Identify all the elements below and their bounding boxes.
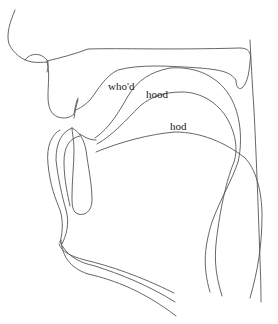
nostril-outline bbox=[25, 54, 48, 72]
tongue-hood bbox=[97, 92, 236, 296]
tongue-whod bbox=[95, 68, 240, 292]
label-whod: who'd bbox=[108, 80, 135, 92]
label-hood: hood bbox=[146, 88, 169, 100]
pharyngeal-wall bbox=[250, 40, 261, 302]
lower-teeth-outline bbox=[72, 128, 92, 214]
lower-lip-middle bbox=[56, 128, 72, 244]
tongue-hod bbox=[96, 132, 262, 298]
jaw-outline-3 bbox=[61, 240, 176, 316]
nose-outline bbox=[8, 10, 48, 62]
vocal-tract-diagram: who'd hood hod bbox=[0, 0, 278, 324]
jaw-outline-2 bbox=[60, 242, 175, 302]
label-hod: hod bbox=[170, 120, 187, 132]
upper-lip-outline bbox=[47, 62, 78, 118]
